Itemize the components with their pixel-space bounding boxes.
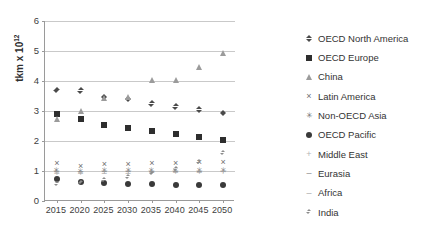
y-axis-tick-label: 3 <box>17 106 39 116</box>
x-axis-tick-mark <box>176 200 177 203</box>
data-point <box>196 64 202 70</box>
legend-item[interactable]: OECD Europe <box>303 48 423 67</box>
marker-hyphen: ‒ <box>218 167 228 176</box>
marker-triangle <box>196 64 202 70</box>
marker-diamond <box>306 32 312 38</box>
marker-diamond-lower <box>77 91 83 97</box>
data-point <box>174 167 178 171</box>
marker-square <box>125 125 131 131</box>
data-point <box>101 122 107 128</box>
legend-marker: ‒ <box>303 187 315 199</box>
marker-diamond-lower <box>149 173 153 177</box>
legend-item[interactable]: India <box>303 203 423 222</box>
marker-hyphen: ‒ <box>76 169 86 178</box>
y-axis-tick-label: 4 <box>17 76 39 86</box>
gridline <box>45 81 235 82</box>
data-point <box>54 116 60 122</box>
chart-legend: OECD North AmericaOECD EuropeChina×Latin… <box>303 29 423 222</box>
legend-label: Middle East <box>318 150 368 160</box>
marker-plus: + <box>304 150 314 159</box>
y-axis-tick-mark <box>42 171 45 172</box>
legend-item[interactable]: ‒Africa <box>303 183 423 202</box>
data-point <box>125 181 131 187</box>
legend-label: Africa <box>318 188 342 198</box>
legend-label: OECD Europe <box>318 53 379 63</box>
data-point <box>101 95 107 101</box>
legend-marker: – <box>303 168 315 180</box>
marker-triangle <box>173 77 179 83</box>
legend-item[interactable]: ×Latin America <box>303 87 423 106</box>
marker-square <box>78 116 84 122</box>
marker-diamond <box>102 175 106 179</box>
legend-marker: × <box>303 91 315 103</box>
legend-item[interactable]: +Middle East <box>303 145 423 164</box>
marker-diamond-lower <box>125 177 129 181</box>
legend-item[interactable]: OECD North America <box>303 29 423 48</box>
marker-diamond-lower <box>78 182 82 186</box>
legend-item[interactable]: –Eurasia <box>303 164 423 183</box>
data-point: ‒ <box>76 169 86 178</box>
marker-circle <box>306 132 312 138</box>
marker-circle <box>149 181 155 187</box>
marker-diamond <box>307 207 311 211</box>
marker-triangle <box>101 95 107 101</box>
marker-hyphen: ‒ <box>52 169 62 178</box>
marker-dash: – <box>304 169 314 178</box>
gridline <box>45 21 235 22</box>
data-point <box>173 182 179 188</box>
marker-circle <box>125 181 131 187</box>
x-axis-tick-mark <box>128 200 129 203</box>
marker-diamond-lower <box>196 162 200 166</box>
legend-marker <box>303 33 315 45</box>
marker-diamond-lower <box>220 153 224 157</box>
data-point <box>78 116 84 122</box>
data-point <box>149 181 155 187</box>
legend-label: Latin America <box>318 92 376 102</box>
legend-item[interactable]: China <box>303 68 423 87</box>
gridline <box>45 51 235 52</box>
data-point <box>149 101 155 107</box>
legend-item[interactable]: ✳Non-OECD Asia <box>303 106 423 125</box>
legend-marker <box>303 129 315 141</box>
gridline <box>45 111 235 112</box>
marker-diamond-lower <box>220 113 226 119</box>
marker-diamond <box>126 172 130 176</box>
marker-diamond <box>79 178 83 182</box>
data-point <box>55 182 59 186</box>
data-point <box>220 182 226 188</box>
marker-diamond <box>150 169 154 173</box>
data-point <box>78 88 84 94</box>
marker-diamond-lower <box>306 212 310 216</box>
legend-label: OECD Pacific <box>318 130 376 140</box>
marker-square <box>196 134 202 140</box>
marker-diamond-lower <box>173 169 177 173</box>
data-point <box>220 137 226 143</box>
data-point <box>126 175 130 179</box>
data-point <box>173 131 179 137</box>
marker-square <box>220 137 226 143</box>
marker-triangle <box>306 74 312 80</box>
marker-diamond <box>54 84 60 90</box>
marker-square <box>101 122 107 128</box>
legend-marker: ✳ <box>303 110 315 122</box>
marker-triangle <box>54 116 60 122</box>
y-axis-tick-mark <box>42 201 45 202</box>
gridline <box>45 171 235 172</box>
legend-item[interactable]: OECD Pacific <box>303 125 423 144</box>
marker-triangle <box>149 77 155 83</box>
marker-diamond <box>196 103 202 109</box>
y-axis-tick-mark <box>42 51 45 52</box>
marker-triangle <box>220 50 226 56</box>
y-axis-tick-label: 2 <box>17 136 39 146</box>
marker-diamond <box>197 157 201 161</box>
data-point <box>78 108 84 114</box>
data-point <box>196 182 202 188</box>
data-point <box>220 50 226 56</box>
legend-marker: + <box>303 148 315 160</box>
data-point <box>197 160 201 164</box>
legend-marker <box>303 52 315 64</box>
x-axis-tick-mark <box>57 200 58 203</box>
legend-label: India <box>318 208 339 218</box>
data-point <box>196 107 202 113</box>
marker-diamond-lower <box>53 90 59 96</box>
